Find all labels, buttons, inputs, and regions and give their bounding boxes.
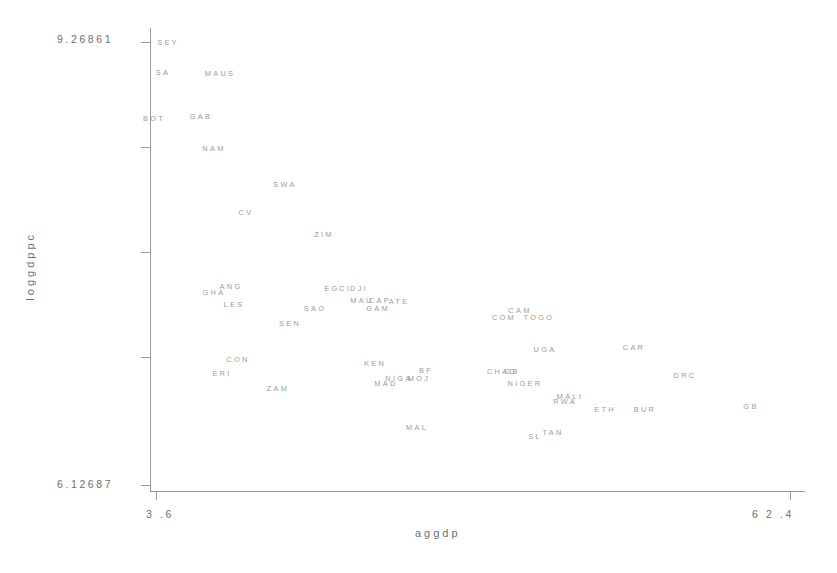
data-point-label: TOGO xyxy=(524,313,555,322)
y-axis-max-label: 9.26861 xyxy=(57,33,113,45)
data-point-label: MAD xyxy=(374,379,397,388)
data-point-label: EG xyxy=(324,284,339,293)
x-axis-min-label: 3 .6 xyxy=(146,508,174,520)
scatter-plot: 9.26861 6.12687 3 .6 6 2 .4 aggdp loggdp… xyxy=(0,0,837,573)
data-point-label: COM xyxy=(492,313,516,322)
data-point-label: SWA xyxy=(273,180,296,189)
data-point-label: BUR xyxy=(634,405,657,414)
data-point-label: CV xyxy=(239,208,254,217)
data-point-label: SL xyxy=(528,432,542,441)
data-point-label: CAR xyxy=(623,343,646,352)
data-point-label: DJI xyxy=(350,284,368,293)
data-point-label: ETH xyxy=(594,405,616,414)
data-point-label: ERI xyxy=(212,369,231,378)
x-axis-tick xyxy=(790,491,791,500)
data-point-label: ZIM xyxy=(314,230,334,239)
y-axis-tick xyxy=(141,252,151,253)
data-point-label: SEY xyxy=(157,38,179,47)
data-point-label: UGA xyxy=(534,345,557,354)
data-point-label: BOT xyxy=(143,114,165,123)
data-point-label: GB xyxy=(743,402,758,411)
data-point-label: SAO xyxy=(304,304,327,313)
x-axis-tick xyxy=(156,491,157,500)
data-point-label: DRC xyxy=(674,371,697,380)
y-axis-title: loggdppc xyxy=(24,232,36,301)
data-point-label: GAB xyxy=(190,112,213,121)
data-point-label: MAL xyxy=(406,423,428,432)
y-axis-tick xyxy=(141,485,151,486)
data-point-label: NIGER xyxy=(508,379,543,388)
x-axis-max-label: 6 2 .4 xyxy=(752,508,794,520)
data-point-label: TAN xyxy=(542,428,563,437)
data-point-label: GAM xyxy=(366,304,390,313)
data-point-label: CON xyxy=(226,355,249,364)
data-point-label: GHA xyxy=(203,288,226,297)
data-point-label: LES xyxy=(224,300,245,309)
data-point-label: MAUS xyxy=(205,69,236,78)
data-point-label: ZAM xyxy=(267,384,290,393)
y-axis-line xyxy=(150,28,151,491)
data-point-label: MOJ xyxy=(408,374,431,383)
data-point-label: SA xyxy=(156,68,170,77)
data-point-label: NAM xyxy=(202,144,225,153)
y-axis-tick xyxy=(141,42,151,43)
x-axis-line xyxy=(150,491,805,492)
data-point-label: GB xyxy=(504,367,519,376)
data-point-label: KEN xyxy=(364,359,386,368)
x-axis-title: aggdp xyxy=(415,527,461,539)
data-point-label: RWA xyxy=(553,397,577,406)
y-axis-tick xyxy=(141,357,151,358)
y-axis-tick xyxy=(141,147,151,148)
data-point-label: ATE xyxy=(389,297,410,306)
y-axis-min-label: 6.12687 xyxy=(57,478,113,490)
data-point-label: SEN xyxy=(279,319,301,328)
